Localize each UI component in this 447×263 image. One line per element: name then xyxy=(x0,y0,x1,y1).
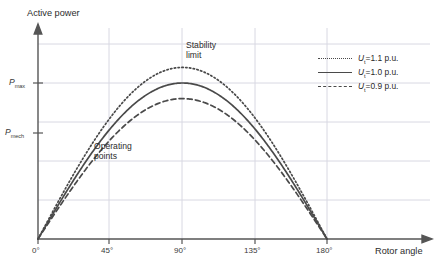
pmech-subscript: mech xyxy=(11,133,24,139)
chart-canvas xyxy=(0,0,447,263)
legend-value-3: =0.9 p.u. xyxy=(366,81,399,91)
operating-points-line-1: Operating xyxy=(94,141,132,151)
annotation-stability-limit: Stability limit xyxy=(186,40,216,60)
y-tick-label-pmax: Pmax xyxy=(9,77,25,89)
power-angle-chart: Active power Rotor angle Pmax Pmech 0° 4… xyxy=(0,0,447,263)
stability-limit-line-2: limit xyxy=(186,50,216,60)
y-axis-title: Active power xyxy=(27,8,80,19)
pmax-subscript: max xyxy=(15,83,25,89)
x-tick-label-135: 135° xyxy=(244,246,261,255)
legend-item-ut-1-1: Ut=1.1 p.u. xyxy=(318,52,436,66)
legend-label-ut-1-0: Ut=1.0 p.u. xyxy=(358,67,398,79)
legend-value-2: =1.0 p.u. xyxy=(366,67,399,77)
y-axis-arrow xyxy=(34,24,42,34)
x-axis-title: Rotor angle xyxy=(375,246,423,257)
y-tick-label-pmech: Pmech xyxy=(5,127,24,139)
x-tick-label-180: 180° xyxy=(316,246,333,255)
annotation-operating-points: Operating points xyxy=(94,141,132,161)
legend-label-ut-1-1: Ut=1.1 p.u. xyxy=(358,53,398,65)
x-axis-arrow xyxy=(422,235,432,243)
legend: Ut=1.1 p.u. Ut=1.0 p.u. Ut=0.9 p.u. xyxy=(318,52,436,94)
legend-item-ut-1-0: Ut=1.0 p.u. xyxy=(318,66,436,80)
x-tick-label-90: 90° xyxy=(174,246,186,255)
x-tick-label-0: 0° xyxy=(32,246,40,255)
legend-value-1: =1.1 p.u. xyxy=(366,53,399,63)
operating-points-line-2: points xyxy=(94,151,132,161)
stability-limit-line-1: Stability xyxy=(186,40,216,50)
legend-item-ut-0-9: Ut=0.9 p.u. xyxy=(318,80,436,94)
x-tick-label-45: 45° xyxy=(101,246,113,255)
legend-label-ut-0-9: Ut=0.9 p.u. xyxy=(358,81,398,93)
